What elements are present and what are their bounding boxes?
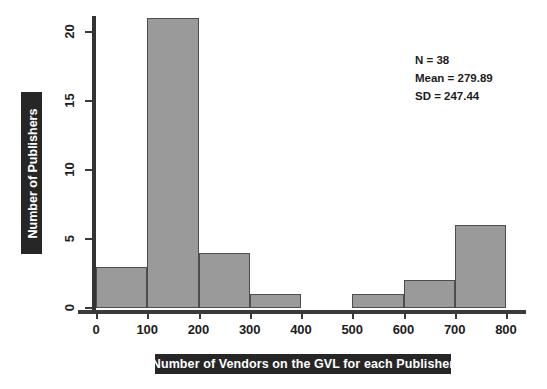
stats-annotation: N = 38 Mean = 279.89 SD = 247.44 [415, 52, 493, 105]
y-axis-tick [85, 238, 93, 240]
y-axis-tick [85, 31, 93, 33]
x-axis-tick [352, 312, 354, 319]
x-axis-tick-label: 300 [230, 322, 270, 337]
x-axis-tick-label: 600 [384, 322, 424, 337]
x-axis-tick [96, 312, 98, 319]
histogram-bar [250, 294, 301, 308]
histogram-bar [455, 225, 506, 308]
x-axis-tick [404, 312, 406, 319]
histogram-bar [96, 267, 147, 308]
y-axis-tick [85, 307, 93, 309]
x-axis-tick-label: 700 [435, 322, 475, 337]
x-axis-tick [250, 312, 252, 319]
x-axis-tick [147, 312, 149, 319]
y-axis-tick-label: 0 [62, 295, 77, 321]
histogram-bar [147, 18, 198, 308]
histogram-figure: Number of Publishers 0100200300400500600… [0, 0, 547, 389]
y-axis-tick [85, 100, 93, 102]
x-axis-tick [199, 312, 201, 319]
x-axis-tick-label: 800 [486, 322, 526, 337]
y-axis-tick-label: 20 [62, 18, 77, 44]
x-axis-tick-label: 500 [332, 322, 372, 337]
x-axis-tick-label: 0 [76, 322, 116, 337]
y-axis-tick [85, 169, 93, 171]
histogram-bar [199, 253, 250, 308]
x-axis-tick-label: 400 [281, 322, 321, 337]
stats-sd: SD = 247.44 [415, 88, 493, 106]
stats-n: N = 38 [415, 52, 493, 70]
x-axis-tick [455, 312, 457, 319]
x-axis-tick-label: 200 [179, 322, 219, 337]
y-axis-tick-label: 5 [62, 225, 77, 251]
stats-mean: Mean = 279.89 [415, 70, 493, 88]
histogram-bar [404, 280, 455, 308]
x-axis-tick [301, 312, 303, 319]
x-axis-title: Number of Vendors on the GVL for each Pu… [155, 354, 451, 374]
y-axis-title: Number of Publishers [21, 92, 42, 254]
y-axis-tick-label: 10 [62, 156, 77, 182]
y-axis-tick-label: 15 [62, 87, 77, 113]
x-axis-tick-label: 100 [127, 322, 167, 337]
y-axis-title-bar: Number of Publishers [21, 92, 42, 254]
histogram-bar [352, 294, 403, 308]
x-axis-tick [506, 312, 508, 319]
